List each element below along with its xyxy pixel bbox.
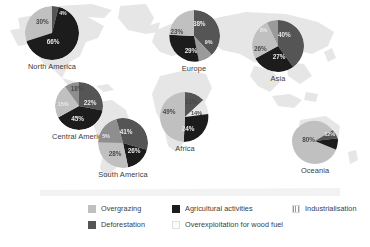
legend-label-agricultural-activities: Agricultural activities xyxy=(185,204,253,213)
legend-label-industrialisation: Industrialisation xyxy=(305,204,357,213)
pie-label-europe: Europe xyxy=(182,64,206,73)
slice-pct-sa-overgrazing: 28% xyxy=(109,150,122,157)
legend-swatch-overgrazing xyxy=(88,205,96,213)
pie-chart-south-america: 41% 26% 28% 5% South America xyxy=(98,118,148,168)
legend-item-deforestation: Deforestation xyxy=(88,220,145,229)
slice-pct-na-agricultural: 66% xyxy=(47,37,60,44)
legend-swatch-agricultural-activities xyxy=(172,205,180,213)
pie-label-north-america: North America xyxy=(28,62,76,71)
slice-pct-as-deforestation: 40% xyxy=(278,30,291,37)
slice-pct-af-deforestation: 13% xyxy=(185,98,198,105)
pie-label-oceania: Oceania xyxy=(301,166,329,175)
pie-europe: 38% 23% 29% 9% xyxy=(168,10,220,62)
pie-chart-north-america: 30% 66% 4% North America xyxy=(25,6,79,60)
slice-pct-eu-overgrazing: 23% xyxy=(171,27,184,34)
pie-label-africa: Africa xyxy=(175,144,195,153)
pie-oceania: 80% 12% xyxy=(292,118,338,164)
pie-label-south-america: South America xyxy=(98,170,147,179)
slice-pct-ca-agricultural: 45% xyxy=(71,115,84,122)
chart-legend: Overgrazing Agricultural activities Indu… xyxy=(0,196,370,247)
pie-chart-central-america: 18% 22% 45% 15% Central America xyxy=(55,82,103,130)
slice-pct-af-agricultural: 24% xyxy=(182,125,195,132)
pie-africa: 13% 14% 24% 49% xyxy=(160,92,210,142)
pie-chart-africa: 13% 14% 24% 49% Africa xyxy=(160,92,210,142)
pie-chart-europe: 38% 23% 29% 9% Europe xyxy=(168,10,220,62)
slice-pct-eu-deforestation: 38% xyxy=(193,20,206,27)
slice-pct-af-overgrazing: 49% xyxy=(163,108,176,115)
legend-item-overexploitation-wood-fuel: Overexploitation for wood fuel xyxy=(172,220,283,229)
slice-pct-ca-overgrazing: 18% xyxy=(71,84,84,91)
legend-label-overexploitation-wood-fuel: Overexploitation for wood fuel xyxy=(185,220,283,229)
pie-label-asia: Asia xyxy=(271,74,286,83)
slice-pct-eu-agricultural: 29% xyxy=(185,46,198,53)
slice-pct-as-overgrazing: 26% xyxy=(254,45,267,52)
slice-pct-sa-woodfuel: 5% xyxy=(102,133,110,139)
legend-item-overgrazing: Overgrazing xyxy=(88,204,141,213)
legend-item-agricultural-activities: Agricultural activities xyxy=(172,204,253,213)
legend-swatch-industrialisation xyxy=(292,205,300,213)
slice-pct-as-agricultural: 27% xyxy=(273,53,286,60)
slice-pct-eu-industrialisation: 9% xyxy=(205,39,213,45)
slice-pct-ca-woodfuel: 15% xyxy=(58,101,69,107)
slice-pct-oc-deforestation: 12% xyxy=(324,131,335,137)
legend-swatch-overexploitation-wood-fuel xyxy=(172,221,180,229)
pie-asia: 40% 27% 26% 8% xyxy=(252,20,304,72)
legend-item-industrialisation: Industrialisation xyxy=(292,204,357,213)
slice-pct-sa-deforestation: 41% xyxy=(120,127,133,134)
slice-pct-af-woodfuel: 14% xyxy=(191,110,202,116)
pie-chart-oceania: 80% 12% Oceania xyxy=(292,118,338,164)
legend-swatch-deforestation xyxy=(88,221,96,229)
slice-pct-ca-deforestation: 22% xyxy=(84,99,97,106)
pie-north-america: 30% 66% 4% xyxy=(25,6,79,60)
legend-label-deforestation: Deforestation xyxy=(101,220,145,229)
slice-pct-sa-agricultural: 26% xyxy=(128,147,141,154)
pie-chart-asia: 40% 27% 26% 8% Asia xyxy=(252,20,304,72)
pie-central-america: 18% 22% 45% 15% xyxy=(55,82,103,130)
slice-pct-as-industrialisation: 8% xyxy=(260,27,268,33)
chart-figure: 30% 66% 4% North America 18% 22% 45% 15%… xyxy=(0,0,370,247)
slice-pct-na-overgrazing: 30% xyxy=(36,18,49,25)
slice-pct-na-deforestation: 4% xyxy=(59,10,66,16)
legend-label-overgrazing: Overgrazing xyxy=(101,204,141,213)
pie-south-america: 41% 26% 28% 5% xyxy=(98,118,148,168)
slice-pct-oc-overgrazing: 80% xyxy=(302,136,315,143)
